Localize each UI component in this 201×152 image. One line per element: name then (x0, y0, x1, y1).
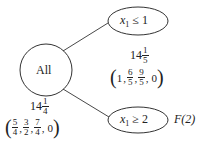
left-sol-3: 95 (138, 68, 145, 87)
comma: , (19, 122, 22, 134)
root-node-label: All (36, 64, 51, 76)
left-sol-1: 1 (117, 72, 123, 84)
denominator: 5 (142, 56, 149, 65)
root-value-whole: 14 (30, 99, 42, 114)
denominator: 2 (23, 128, 30, 137)
edge-root-to-left (63, 23, 108, 51)
comma: , (123, 72, 126, 84)
denominator: 5 (127, 78, 134, 87)
left-value-fraction: 1 5 (142, 46, 149, 65)
root-value-fraction: 1 4 (42, 97, 49, 116)
comma: , (134, 72, 137, 84)
left-node-label: x1 ≤ 1 (120, 14, 148, 29)
denominator: 4 (42, 107, 49, 116)
comma: , (42, 122, 45, 134)
root-solution-vector: ( 54, 32, 74, 0 ) (5, 116, 60, 139)
root-sol-1: 54 (12, 118, 19, 137)
paren-open: ( (110, 66, 117, 89)
denominator: 5 (138, 78, 145, 87)
paren-close: ) (157, 66, 164, 89)
root-sol-3: 74 (34, 118, 41, 137)
constraint: ≥ 2 (129, 112, 148, 126)
comma: , (30, 122, 33, 134)
root-node-value: 14 1 4 (30, 97, 49, 116)
left-value-whole: 14 (130, 48, 142, 63)
left-solution-vector: ( 1, 65, 95, 0 ) (110, 66, 164, 89)
denominator: 4 (12, 128, 19, 137)
paren-open: ( (5, 116, 12, 139)
denominator: 4 (34, 128, 41, 137)
constraint: ≤ 1 (129, 13, 148, 27)
comma: , (146, 72, 149, 84)
right-node-status: F(2) (174, 113, 195, 125)
left-node-value: 14 1 5 (130, 46, 149, 65)
left-sol-2: 65 (127, 68, 134, 87)
right-node-label: x1 ≥ 2 (120, 113, 148, 128)
edge-root-to-right (63, 89, 109, 117)
root-sol-2: 32 (23, 118, 30, 137)
paren-close: ) (53, 116, 60, 139)
